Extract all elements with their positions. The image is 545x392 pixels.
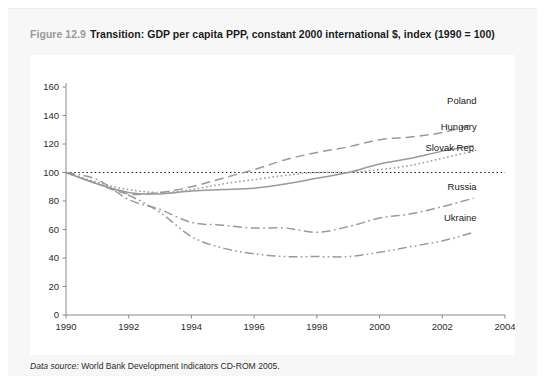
x-axis-tick-label: 2004 [494, 321, 515, 332]
figure-card: Figure 12.9Transition: GDP per capita PP… [8, 8, 537, 376]
series-label-russia: Russia [448, 181, 478, 192]
figure-title: Figure 12.9Transition: GDP per capita PP… [30, 28, 523, 40]
source-text: World Bank Development Indicators CD-ROM… [81, 361, 280, 371]
series-line-hungary [66, 145, 474, 194]
chart-plot-area: 0204060801001201401601990199219941996199… [30, 55, 515, 355]
x-axis-tick-label: 1996 [244, 321, 265, 332]
y-axis-tick-label: 120 [43, 138, 59, 149]
series-label-poland: Poland [447, 95, 477, 106]
figure-number: Figure 12.9 [30, 28, 86, 40]
series-label-slovak-rep: Slovak Rep. [425, 142, 476, 153]
x-axis-tick-label: 1992 [118, 321, 139, 332]
y-axis-tick-label: 40 [48, 252, 59, 263]
y-axis-tick-label: 0 [54, 309, 59, 320]
series-label-ukraine: Ukraine [444, 212, 477, 223]
source-note: Data source: World Bank Development Indi… [30, 361, 280, 371]
source-label: Data source: [30, 361, 79, 371]
y-axis-tick-label: 80 [48, 195, 59, 206]
y-axis-tick-label: 20 [48, 281, 59, 292]
x-axis-tick-label: 1990 [55, 321, 76, 332]
x-axis-tick-label: 2002 [432, 321, 453, 332]
y-axis-tick-label: 60 [48, 224, 59, 235]
figure-title-text: Transition: GDP per capita PPP, constant… [90, 28, 495, 40]
y-axis-tick-label: 100 [43, 167, 59, 178]
x-axis-tick-label: 1998 [306, 321, 327, 332]
series-label-hungary: Hungary [441, 121, 477, 132]
series-line-russia [66, 173, 474, 233]
line-chart: 0204060801001201401601990199219941996199… [30, 55, 515, 355]
x-axis-tick-label: 1994 [181, 321, 202, 332]
series-line-ukraine [66, 173, 474, 257]
y-axis-tick-label: 160 [43, 81, 59, 92]
y-axis-tick-label: 140 [43, 110, 59, 121]
series-line-poland [66, 124, 474, 194]
x-axis-tick-label: 2000 [369, 321, 390, 332]
